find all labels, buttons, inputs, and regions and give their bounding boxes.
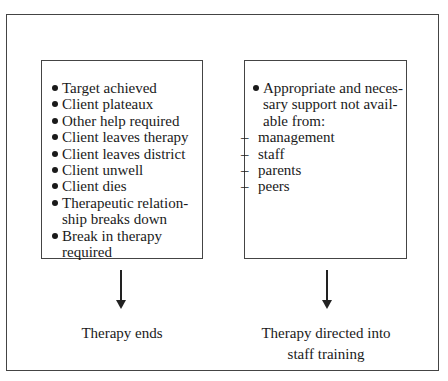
arrow-head: [322, 300, 332, 309]
list-item-line: ship breaks down: [62, 211, 167, 227]
list-item: Other help required: [52, 113, 189, 129]
arrow-shaft: [326, 270, 328, 304]
arrow-head: [116, 300, 126, 309]
right-outcome-label: Therapy directed into staff training: [234, 323, 418, 365]
list-item: staff: [241, 146, 403, 162]
right-criteria-list: Appropriate and neces- sary support not …: [253, 80, 403, 195]
left-criteria-list: Target achieved Client plateaux Other he…: [52, 80, 189, 260]
list-item: Client unwell: [52, 162, 189, 178]
list-item: Client dies: [52, 178, 189, 194]
list-item-line: able from:: [263, 113, 325, 129]
list-item-line: Therapeutic relation-: [62, 195, 188, 211]
list-item-line: sary support not avail-: [263, 96, 398, 112]
list-item: Client plateaux: [52, 96, 189, 112]
list-item: Client leaves district: [52, 146, 189, 162]
list-item-line: Break in therapy: [62, 228, 162, 244]
arrow-shaft: [120, 270, 122, 304]
list-item: peers: [241, 178, 403, 194]
outcome-line: Therapy directed into: [261, 325, 390, 341]
list-item: Client leaves therapy: [52, 129, 189, 145]
list-item: Appropriate and neces- sary support not …: [253, 80, 403, 129]
list-item: Target achieved: [52, 80, 189, 96]
list-item: management: [241, 129, 403, 145]
outcome-line: staff training: [288, 346, 365, 362]
right-criteria-box: Appropriate and neces- sary support not …: [244, 60, 407, 259]
list-item-line: Appropriate and neces-: [263, 80, 403, 96]
list-item: Break in therapy required: [52, 228, 189, 261]
left-outcome-label: Therapy ends: [41, 323, 203, 344]
down-arrow-icon: [116, 270, 126, 310]
left-criteria-box: Target achieved Client plateaux Other he…: [41, 60, 203, 259]
down-arrow-icon: [322, 270, 332, 310]
list-item: Therapeutic relation- ship breaks down: [52, 195, 189, 228]
list-item: parents: [241, 162, 403, 178]
list-item-line: required: [62, 244, 112, 260]
